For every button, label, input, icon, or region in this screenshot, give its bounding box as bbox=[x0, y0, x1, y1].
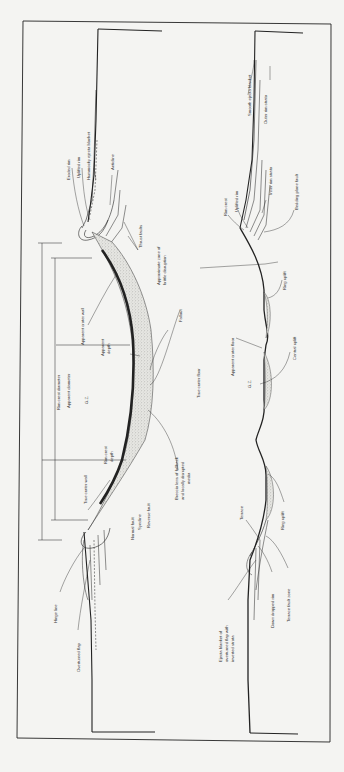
label-ring-uplift-top: Ring uplift bbox=[282, 271, 287, 290]
label-ejecta-flap-1: Ejecta blanket of bbox=[218, 630, 223, 662]
crater-cross-section-diagram: Eroded rim Uplifted rim Hummocky ejecta … bbox=[0, 0, 344, 772]
label-terrace-fault-zone: Terrace fault zone bbox=[286, 588, 291, 622]
label-smooth-ejecta: Smooth ejecta blanket bbox=[247, 74, 252, 116]
label-eroded-rim: Eroded rim bbox=[66, 159, 71, 180]
label-ejecta-flap-3: inverted strata bbox=[230, 635, 235, 662]
complex-crater-floor bbox=[240, 228, 268, 733]
right-ground-top bbox=[255, 31, 303, 33]
label-fallout: Fallout bbox=[178, 309, 183, 322]
label-ejecta-flap-2: overturned flap with bbox=[224, 625, 229, 662]
label-reverse-fault: Reverse fault bbox=[146, 502, 151, 528]
breccia-lens bbox=[88, 232, 153, 530]
label-apparent-diameter: Apparent diameter bbox=[66, 373, 71, 408]
label-down-dropped-rim: Down dropped rim bbox=[270, 593, 275, 628]
label-overturned-flap: Overturned flap bbox=[76, 642, 81, 672]
label-brittle-zone-1: Approximate zone of bbox=[156, 246, 161, 285]
label-inner-rim-strata: Inner rim strata bbox=[268, 166, 273, 195]
label-rim-crest-depth-2: depth bbox=[109, 451, 114, 462]
label-breccia-3: media bbox=[186, 472, 191, 484]
label-terrace: Terrace bbox=[239, 505, 244, 520]
label-outer-rim-strata: Outer rim strata bbox=[263, 94, 268, 124]
label-rim-crest-depth-1: Rim crest bbox=[103, 445, 108, 464]
label-breccia-2: and locally disrupted bbox=[180, 461, 185, 500]
label-gz-left: G.Z. bbox=[84, 396, 89, 404]
left-ground-line-upper bbox=[88, 29, 98, 222]
label-rim-crest-diameter: Rim crest diameter bbox=[56, 374, 61, 410]
label-true-crater-floor: True crater floor bbox=[196, 368, 201, 398]
label-syncline: Syncline bbox=[137, 514, 142, 530]
label-anticline: Anticline bbox=[110, 154, 115, 170]
label-uplifted-rim: Uplifted rim bbox=[76, 156, 81, 178]
right-ground-bottom bbox=[250, 733, 298, 734]
label-apparent-crater-wall: Apparent crater wall bbox=[80, 308, 85, 345]
label-hummocky-ejecta: Hummocky ejecta blanket bbox=[86, 131, 91, 180]
label-bedding-plane-fault: Bedding plane fault bbox=[294, 173, 299, 210]
label-apparent-depth-2: depth bbox=[106, 343, 111, 354]
label-rim-crest: Rim crest bbox=[223, 197, 228, 216]
label-hinge-line: Hinge line bbox=[53, 604, 58, 623]
left-crater-labels: Eroded rim Uplifted rim Hummocky ejecta … bbox=[53, 131, 201, 672]
label-central-uplift: Central uplift bbox=[292, 336, 297, 360]
label-apparent-depth-1: Apparent bbox=[100, 338, 105, 356]
label-apparent-crater-floor: Apparent crater floor bbox=[230, 337, 235, 376]
label-gz-right: G.Z. bbox=[247, 380, 252, 388]
left-ground-top bbox=[98, 29, 162, 31]
label-ring-uplift-bottom: Ring uplift bbox=[280, 511, 285, 530]
label-thrust-faults: Thrust faults bbox=[138, 225, 143, 248]
label-breccia-1: Breccia lens of fallback bbox=[174, 456, 179, 500]
label-true-crater-wall: True crater wall bbox=[83, 475, 88, 504]
label-normal-fault: Normal fault bbox=[130, 517, 135, 540]
label-brittle-zone-2: brittle disruption bbox=[162, 255, 167, 285]
label-uplifted-rim-right: Uplifted rim bbox=[234, 190, 239, 212]
figure-frame bbox=[17, 21, 331, 742]
